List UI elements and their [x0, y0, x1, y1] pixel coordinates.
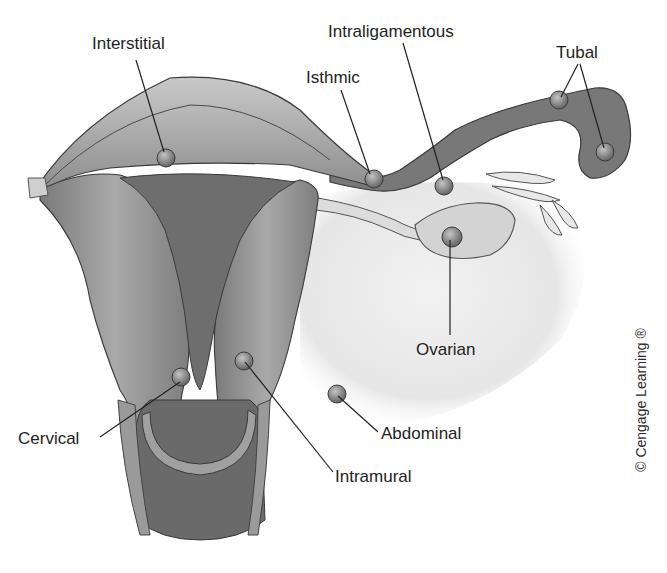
label-isthmic: Isthmic — [306, 68, 360, 88]
site-isthmic — [365, 170, 383, 188]
label-abdominal: Abdominal — [381, 424, 461, 444]
copyright-notice: © Cengage Learning ® — [633, 328, 649, 472]
left-tube-stump — [28, 178, 48, 198]
label-tubal: Tubal — [556, 43, 598, 63]
label-ovarian: Ovarian — [416, 340, 476, 360]
site-interstitial — [157, 149, 175, 167]
label-intraligamentous: Intraligamentous — [328, 22, 454, 42]
site-tubal-2 — [596, 143, 614, 161]
label-interstitial: Interstitial — [92, 34, 165, 54]
site-tubal-1 — [550, 91, 568, 109]
label-cervical: Cervical — [18, 429, 79, 449]
site-intraligamentous — [435, 177, 453, 195]
site-intramural — [235, 352, 253, 370]
site-ovarian — [442, 227, 462, 247]
site-cervical — [172, 368, 190, 386]
label-intramural: Intramural — [335, 467, 412, 487]
